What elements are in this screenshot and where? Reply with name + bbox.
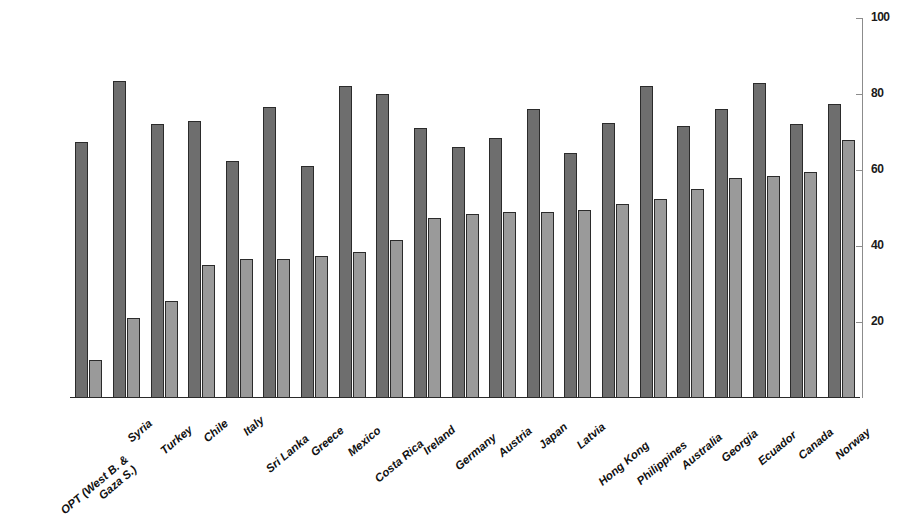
x-axis-label: Mexico: [345, 424, 383, 459]
bar-series-2: [240, 259, 253, 398]
bar-group: [296, 18, 334, 398]
bar-series-1: [828, 104, 841, 399]
y-axis-tick-label: 60: [871, 162, 883, 176]
x-axis-label-line: Greece: [308, 424, 346, 458]
x-axis-label: Germany: [452, 431, 499, 473]
x-axis-label: Canada: [795, 426, 835, 463]
x-axis-label-line: Syria: [125, 417, 154, 444]
x-axis-label-line: Chile: [201, 417, 230, 444]
y-axis-tick-label: 40: [871, 238, 883, 252]
bar-series-2: [127, 318, 140, 398]
x-axis-label: Greece: [308, 424, 346, 459]
y-axis-tick-mark: [856, 322, 862, 323]
bar-group: [559, 18, 597, 398]
bar-group: [823, 18, 861, 398]
x-axis-label: OPT (West B. &Gaza S.): [58, 453, 139, 518]
bar-group: [333, 18, 371, 398]
bar-series-1: [151, 124, 164, 398]
y-axis-tick-label: 20: [871, 314, 883, 328]
bar-group: [597, 18, 635, 398]
bar-series-1: [489, 138, 502, 398]
bar-group: [672, 18, 710, 398]
bar-group: [371, 18, 409, 398]
bar-series-2: [89, 360, 102, 398]
x-axis-label: Syria: [125, 417, 155, 445]
y-axis-tick-mark: [856, 94, 862, 95]
bar-series-1: [301, 166, 314, 398]
x-axis-label: Ireland: [421, 423, 458, 457]
bar-series-1: [188, 121, 201, 398]
x-axis-label-line: Germany: [452, 431, 498, 472]
y-axis-line: [862, 18, 863, 398]
bar-series-1: [376, 94, 389, 398]
bar-group: [785, 18, 823, 398]
x-axis-label: Italy: [241, 414, 267, 439]
bar-series-2: [578, 210, 591, 398]
bar-group: [484, 18, 522, 398]
bar-series-2: [466, 214, 479, 398]
bar-group: [747, 18, 785, 398]
x-axis-label-line: Japan: [537, 420, 570, 451]
bar-series-1: [75, 142, 88, 399]
x-axis-label: Turkey: [158, 423, 195, 457]
bar-series-1: [263, 107, 276, 398]
x-axis-label-line: Ecuador: [755, 429, 798, 468]
bar-group: [710, 18, 748, 398]
bar-series-1: [715, 109, 728, 398]
x-axis-label: Georgia: [719, 427, 761, 465]
bar-series-2: [503, 212, 516, 398]
bar-group: [145, 18, 183, 398]
bar-group: [446, 18, 484, 398]
bar-series-2: [315, 256, 328, 399]
x-axis-label: Chile: [201, 417, 231, 445]
bar-series-2: [277, 259, 290, 398]
bar-series-1: [753, 83, 766, 398]
x-axis-label: Sri Lanka: [263, 432, 311, 475]
bar-series-2: [842, 140, 855, 398]
bar-series-2: [691, 189, 704, 398]
bar-series-2: [767, 176, 780, 398]
y-axis-tick-label: 80: [871, 86, 883, 100]
bar-group: [108, 18, 146, 398]
bar-series-2: [541, 212, 554, 398]
x-axis-label-line: Italy: [241, 414, 266, 438]
x-axis-label: Norway: [833, 426, 873, 463]
bar-group: [70, 18, 108, 398]
x-axis-label: Costa Rica: [372, 437, 426, 485]
bar-series-2: [616, 204, 629, 398]
bar-series-2: [804, 172, 817, 398]
bar-group: [258, 18, 296, 398]
x-axis-label-line: Sri Lanka: [263, 432, 310, 474]
x-axis-label-line: Canada: [795, 426, 835, 462]
bar-series-2: [202, 265, 215, 398]
bar-series-2: [390, 240, 403, 398]
x-axis-label: Austria: [496, 424, 535, 460]
bar-series-1: [640, 86, 653, 398]
bar-series-2: [654, 199, 667, 399]
bar-series-1: [339, 86, 352, 398]
x-axis-label-line: Mexico: [345, 424, 383, 458]
bar-series-container: [70, 18, 860, 398]
bar-series-1: [452, 147, 465, 398]
x-axis-labels: OPT (West B. &Gaza S.)SyriaTurkeyChileIt…: [70, 399, 860, 480]
x-axis-label-line: Ireland: [421, 423, 458, 456]
plot-area: [70, 18, 860, 398]
x-axis-label-line: Georgia: [719, 427, 760, 464]
bar-series-2: [428, 218, 441, 399]
x-axis-label-line: Turkey: [158, 423, 194, 456]
bar-series-1: [602, 123, 615, 399]
x-axis-label: Japan: [537, 420, 571, 451]
y-axis-tick-mark: [856, 246, 862, 247]
bar-series-1: [677, 126, 690, 398]
bar-group: [183, 18, 221, 398]
bar-series-2: [353, 252, 366, 398]
bar-series-1: [527, 109, 540, 398]
bar-series-2: [165, 301, 178, 398]
bar-series-2: [729, 178, 742, 398]
y-axis: 20406080100: [862, 18, 902, 398]
bar-group: [221, 18, 259, 398]
bar-series-1: [564, 153, 577, 398]
x-axis-label: Latvia: [574, 420, 608, 451]
y-axis-tick-mark: [856, 170, 862, 171]
